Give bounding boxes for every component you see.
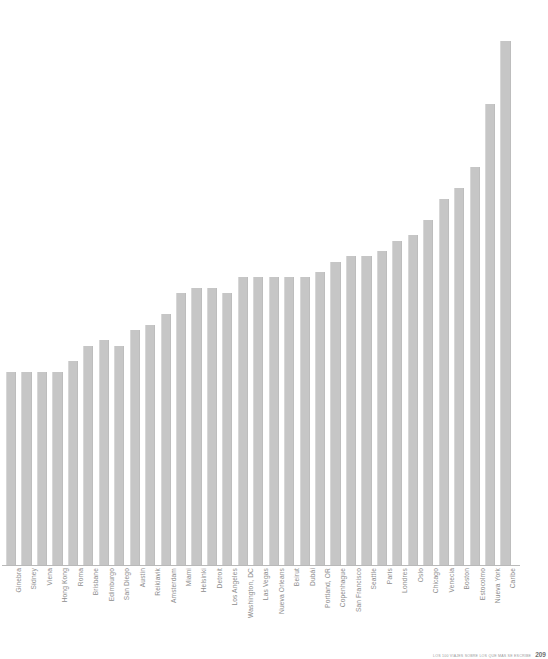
bar [392,241,402,567]
bar [207,288,217,566]
x-axis-label: París [386,568,393,584]
x-axis-label: Roma [77,568,84,586]
bar [470,167,480,566]
x-axis-label: Washington, DC [247,568,254,618]
x-axis-label: Miami [185,568,192,586]
bar [68,361,78,566]
x-axis-label: Sídney [30,568,37,589]
bar [238,277,248,566]
x-axis-label: Venecia [448,568,455,593]
x-axis-label: Dubái [309,568,316,586]
bar [346,256,356,566]
bar [21,372,31,566]
bar [500,41,510,566]
bar [6,372,16,566]
x-axis-label: Hong Kong [61,568,68,602]
x-axis-label: San Francisco [355,568,362,612]
x-axis-label: Londres [401,568,408,593]
bar [269,277,279,566]
bar [161,314,171,566]
x-axis-label: Amsterdam [170,568,177,603]
bar [485,104,495,566]
bar [300,277,310,566]
footer-caption: LOS 100 VIAJES SOBRE LOS QUE MÁS SE ESCR… [433,654,531,658]
bar [99,340,109,566]
bar [222,293,232,566]
x-axis-label: Ginebra [15,568,22,593]
bar [37,372,47,566]
bar [114,346,124,567]
x-axis-label: Nueva Orleans [278,568,285,614]
x-axis-baseline [2,565,520,566]
x-axis-label: Oslo [417,568,424,582]
bar [408,235,418,566]
x-axis-label: Portland, OR [324,568,331,608]
x-axis-label: Caribe [509,568,516,588]
x-axis-label: Austin [139,568,146,587]
x-axis-label: Nueva York [494,568,501,603]
x-axis-labels: GinebraSídneyVienaHong KongRomaBrisbaneE… [0,568,548,648]
x-axis-label: Estocolmo [479,568,486,600]
page-footer: LOS 100 VIAJES SOBRE LOS QUE MÁS SE ESCR… [433,640,546,658]
x-axis-label: Detroit [216,568,223,588]
bar [191,288,201,566]
x-axis-label: Las Vegas [262,568,269,600]
bar [377,251,387,566]
bar [83,346,93,567]
x-axis-label: Viena [46,568,53,586]
bar [145,325,155,567]
bar [176,293,186,566]
bar [253,277,263,566]
x-axis-label: Boston [463,568,470,589]
x-axis-label: Beirut [293,568,300,586]
bar-chart-plot [0,0,548,566]
x-axis-label: Copenhague [339,568,346,607]
bar [284,277,294,566]
chart-page: GinebraSídneyVienaHong KongRomaBrisbaneE… [0,0,548,659]
bar [439,199,449,567]
bar [330,262,340,567]
bar [130,330,140,566]
bar [52,372,62,566]
x-axis-label: Los Angeles [231,568,238,606]
x-axis-label: Chicago [432,568,439,593]
x-axis-label: Helsinki [200,568,207,592]
bar [423,220,433,567]
x-axis-label: Brisbane [92,568,99,595]
x-axis-label: Reikiavik [154,568,161,596]
footer-page-number: 209 [535,651,546,658]
x-axis-label: San Diego [123,568,130,600]
bar [454,188,464,566]
bar [315,272,325,566]
x-axis-label: Seattle [370,568,377,590]
bar [361,256,371,566]
x-axis-label: Edimburgo [108,568,115,601]
